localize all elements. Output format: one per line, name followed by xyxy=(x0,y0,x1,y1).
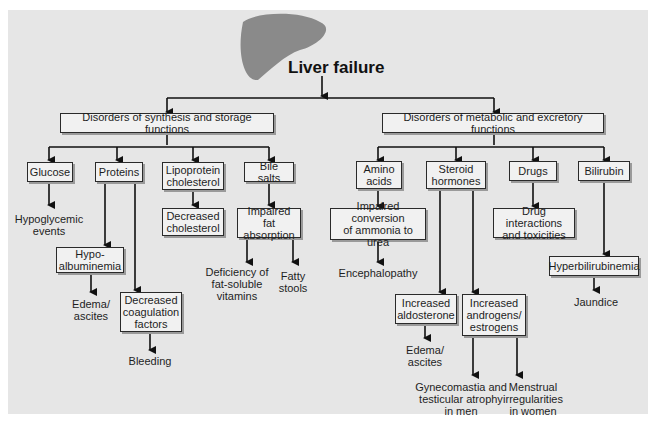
node-bilirubin: Bilirubin xyxy=(578,161,630,181)
node-glucose: Glucose xyxy=(27,162,73,182)
outcome-edema-ascites-right: Edema/ ascites xyxy=(406,344,444,368)
node-impaired-fat-absorption: Impaired fat absorption xyxy=(237,208,301,238)
node-hyperbilirubinemia: Hyperbilirubinemia xyxy=(549,256,639,276)
node-amino-acids: Amino acids xyxy=(356,161,402,189)
node-lipoprotein-cholesterol: Lipoprotein cholesterol xyxy=(162,162,224,190)
outcome-gynecomastia: Gynecomastia and testicular atrophy in m… xyxy=(415,381,507,417)
outcome-fatty-stools: Fatty stools xyxy=(279,270,308,294)
outcome-vitamin-deficiency: Deficiency of fat-soluble vitamins xyxy=(206,266,269,302)
node-proteins: Proteins xyxy=(95,162,143,182)
node-drugs: Drugs xyxy=(509,161,557,181)
outcome-encephalopathy: Encephalopathy xyxy=(339,267,418,279)
node-bile-salts: Bile salts xyxy=(244,162,294,182)
diagram-canvas: Liver failure Disorders of synthesis and… xyxy=(0,0,659,429)
node-decreased-coagulation: Decreased coagulation factors xyxy=(120,292,182,332)
node-impaired-ammonia-conversion: Impaired conversion of ammonia to urea xyxy=(330,208,426,240)
node-metabolic-disorders: Disorders of metabolic and excretory fun… xyxy=(382,113,604,133)
outcome-hypoglycemic-events: Hypoglycemic events xyxy=(15,213,83,237)
node-increased-aldosterone: Increased aldosterone xyxy=(395,294,457,324)
node-hypoalbuminemia: Hypo- albuminemia xyxy=(56,247,124,273)
node-steroid-hormones: Steroid hormones xyxy=(426,161,486,189)
outcome-edema-ascites-left: Edema/ ascites xyxy=(72,298,110,322)
diagram-title: Liver failure xyxy=(288,58,384,78)
outcome-bleeding: Bleeding xyxy=(129,355,172,367)
outcome-jaundice: Jaundice xyxy=(574,296,618,308)
node-drug-interactions: Drug interactions and toxicities xyxy=(493,208,575,238)
node-increased-androgens-estrogens: Increased androgens/ estrogens xyxy=(462,294,526,336)
node-synthesis-disorders: Disorders of synthesis and storage funct… xyxy=(60,113,274,133)
outcome-menstrual-irregularities: Menstrual irregularities in women xyxy=(503,381,563,417)
node-decreased-cholesterol: Decreased cholesterol xyxy=(162,208,224,236)
